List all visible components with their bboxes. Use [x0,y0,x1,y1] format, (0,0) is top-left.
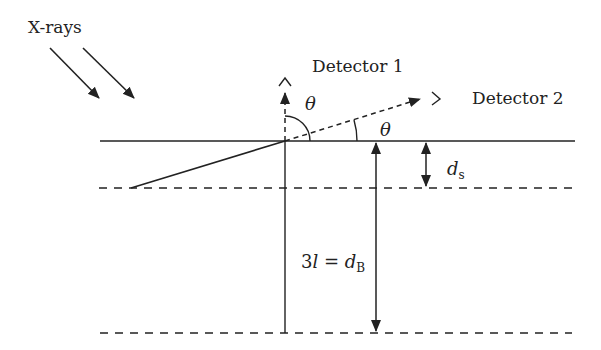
detector1-chevron-icon [279,78,291,86]
depth-diagram: X-rays Detector 1 θ Detector 2 θ ds 3l =… [0,0,601,350]
db-label: 3l = dB [301,251,365,275]
ds-label: ds [447,158,465,182]
theta-arc-2 [354,120,357,141]
incident-path [131,141,285,188]
detector2-label: Detector 2 [472,88,564,108]
detector2-chevron-icon [432,92,440,105]
theta-label-2: θ [380,119,391,140]
theta-label-1: θ [305,93,316,114]
xrays-label: X-rays [28,17,82,37]
detector1-label: Detector 1 [312,56,404,76]
